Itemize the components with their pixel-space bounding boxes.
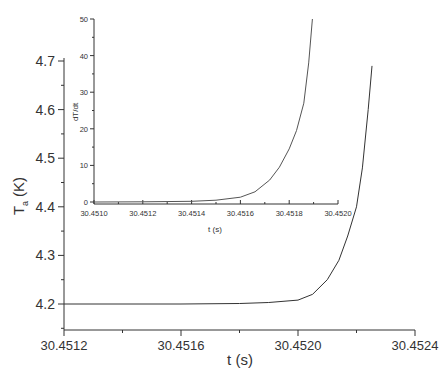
inset-y-tick-label: 20 xyxy=(80,125,88,134)
main-y-tick-label: 4.4 xyxy=(36,199,56,215)
main-y-label-unit: (K) xyxy=(10,177,27,197)
inset-y-ticks: 01020304050 xyxy=(80,15,94,207)
main-x-tick-label: 30.4520 xyxy=(275,338,322,353)
main-series-line xyxy=(64,66,372,304)
main-y-tick-label: 4.2 xyxy=(36,296,56,312)
inset-x-tick-label: 30.4520 xyxy=(324,209,351,218)
main-x-tick-label: 30.4524 xyxy=(392,338,439,353)
inset-x-tick-label: 30.4516 xyxy=(227,209,254,218)
inset-series-line xyxy=(94,19,312,202)
inset-y-tick-label: 0 xyxy=(84,198,88,207)
main-x-label: t (s) xyxy=(227,351,253,368)
inset-x-tick-label: 30.4518 xyxy=(276,209,303,218)
main-y-ticks: 4.24.34.44.54.64.7 xyxy=(36,53,64,328)
main-y-label-subscript: a xyxy=(20,201,30,206)
inset-y-tick-label: 40 xyxy=(80,52,88,61)
main-y-label: Ta(K) xyxy=(10,177,30,215)
main-y-label-symbol: T xyxy=(10,206,27,215)
inset-y-label: dT/dt xyxy=(71,102,80,121)
inset-y-tick-label: 10 xyxy=(80,161,88,170)
inset-y-tick-label: 50 xyxy=(80,15,88,24)
main-x-tick-label: 30.4512 xyxy=(41,338,88,353)
main-y-tick-label: 4.5 xyxy=(36,150,56,166)
svg-text:Ta(K): Ta(K) xyxy=(10,177,30,215)
main-x-tick-label: 30.4516 xyxy=(158,338,205,353)
main-x-ticks: 30.451230.451630.452030.4524 xyxy=(41,330,439,353)
inset-x-tick-label: 30.4510 xyxy=(80,209,107,218)
chart-canvas: 4.24.34.44.54.64.7 30.451230.451630.4520… xyxy=(0,0,443,383)
inset-x-tick-label: 30.4514 xyxy=(178,209,205,218)
inset-y-tick-label: 30 xyxy=(80,88,88,97)
main-y-tick-label: 4.7 xyxy=(36,53,56,69)
inset-x-label: t (s) xyxy=(208,225,222,234)
main-y-tick-label: 4.3 xyxy=(36,247,56,263)
inset-x-ticks: 30.451030.451230.451430.451630.451830.45… xyxy=(80,200,351,218)
main-y-tick-label: 4.6 xyxy=(36,102,56,118)
inset-plot: 01020304050 30.451030.451230.451430.4516… xyxy=(71,15,352,234)
inset-x-tick-label: 30.4512 xyxy=(129,209,156,218)
main-plot: 4.24.34.44.54.64.7 30.451230.451630.4520… xyxy=(10,53,439,368)
